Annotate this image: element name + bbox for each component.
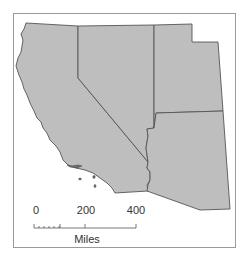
map-canvas: [0, 0, 250, 261]
scale-bar: [34, 224, 136, 228]
scale-tick-0: 0: [33, 205, 39, 216]
state-arizona[interactable]: [146, 111, 230, 210]
scale-tick-200: 200: [77, 205, 95, 216]
scale-tick-400: 400: [127, 205, 145, 216]
scale-unit-label: Miles: [74, 234, 100, 245]
